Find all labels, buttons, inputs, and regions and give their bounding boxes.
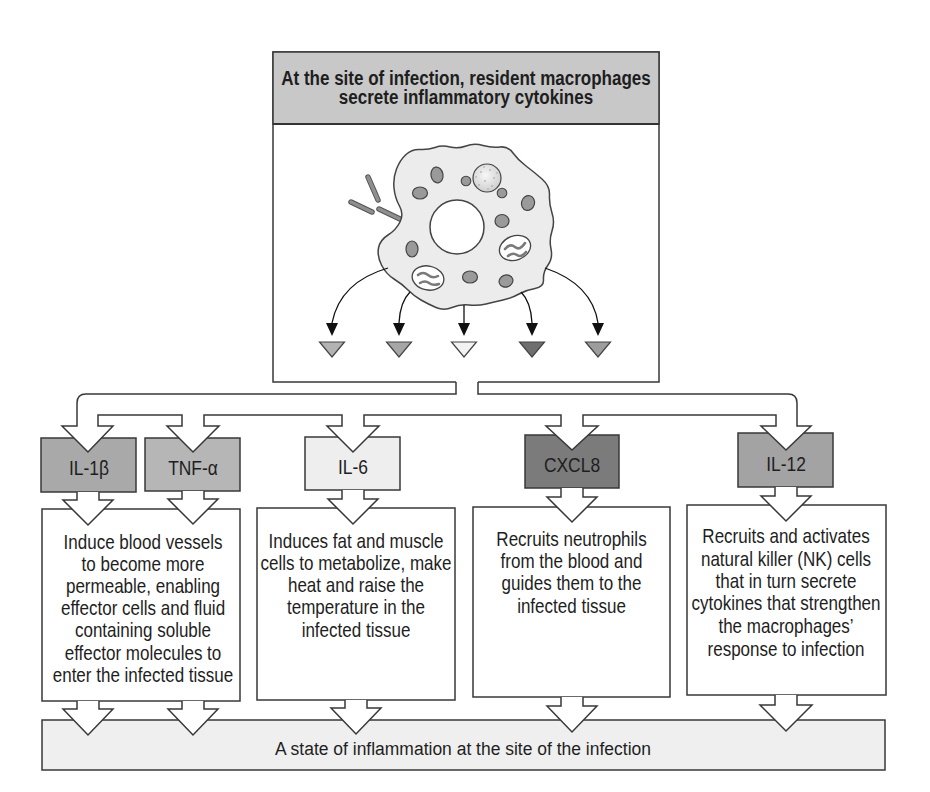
effect-line: the macrophages’ xyxy=(718,615,853,638)
effect-line: temperature in the xyxy=(287,596,425,619)
effect-line: response to infection xyxy=(708,638,865,661)
effect-line: infected tissue xyxy=(302,619,411,642)
effect-line: natural killer (NK) cells xyxy=(701,548,871,571)
effect-line: that in turn secrete xyxy=(716,570,857,593)
effect-line: Induce blood vessels xyxy=(64,531,223,554)
cytokine-label-tnfa: TNF-α xyxy=(168,457,218,480)
nucleus-icon xyxy=(430,200,484,254)
effect-line: guides them to the xyxy=(502,572,642,595)
cytokine-label-il6: IL-6 xyxy=(338,456,368,479)
cytokine-label-il12: IL-12 xyxy=(766,453,806,476)
diagram-canvas: At the site of infection, resident macro… xyxy=(0,0,930,792)
effect-line: heat and raise the xyxy=(288,574,424,597)
effect-line: enter the infected tissue xyxy=(53,664,234,687)
cytokine-label-il1b: IL-1β xyxy=(69,457,109,480)
effect-line: cytokines that strengthen xyxy=(691,592,880,615)
effect-line: Induces fat and muscle xyxy=(269,530,444,553)
effect-line: Recruits neutrophils xyxy=(496,528,646,551)
effect-line: to become more xyxy=(82,553,205,576)
effect-line: effector molecules to xyxy=(65,642,222,665)
outcome-text-group: A state of inflammation at the site of t… xyxy=(275,737,651,759)
effect-line: Recruits and activates xyxy=(702,525,869,548)
effect-text-il12: Recruits and activates natural killer (N… xyxy=(691,525,880,661)
effect-line: permeable, enabling xyxy=(66,575,220,598)
effect-line: cells to metabolize, make xyxy=(261,552,452,575)
panel-title-line-2: secrete inflammatory cytokines xyxy=(339,86,593,109)
inflammation-diagram: At the site of infection, resident macro… xyxy=(0,0,930,792)
effect-line: infected tissue xyxy=(517,595,626,618)
effect-line: effector cells and fluid xyxy=(61,597,225,620)
effect-line: from the blood and xyxy=(501,550,643,573)
effect-text-cxcl8: Recruits neutrophils from the blood and … xyxy=(496,528,646,618)
cytokine-label-cxcl8: CXCL8 xyxy=(544,454,600,477)
effect-line: containing soluble xyxy=(75,619,211,642)
outcome-text: A state of inflammation at the site of t… xyxy=(275,737,651,759)
